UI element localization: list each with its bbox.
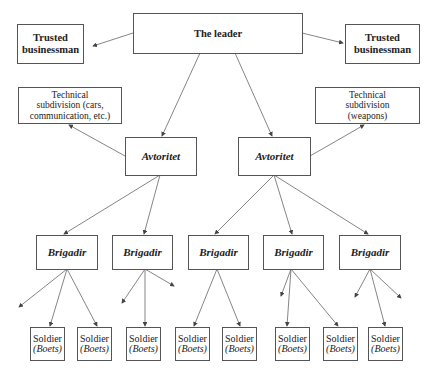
tech-left-line3: communication, etc.)	[30, 111, 110, 121]
trusted-left-line2: businessman	[22, 44, 79, 56]
soldier-sublabel: (Boets)	[278, 344, 307, 355]
brigadir-box-5: Brigadir	[339, 235, 401, 270]
tech-right-line2: subdivision	[346, 100, 390, 110]
leader-box: The leader	[133, 13, 303, 54]
soldier-box-5: Soldier (Boets)	[222, 327, 257, 361]
technical-subdivision-cars-box: Technical subdivision (cars, communicati…	[18, 87, 122, 124]
tech-left-line1: Technical	[52, 90, 89, 100]
soldier-sublabel: (Boets)	[178, 344, 207, 355]
org-chart: The leader Trusted businessman Trusted b…	[0, 0, 430, 370]
avtoritet-label: Avtoritet	[255, 150, 293, 162]
trusted-businessman-right-box: Trusted businessman	[345, 24, 420, 64]
trusted-left-line1: Trusted	[33, 32, 68, 44]
soldier-sublabel: (Boets)	[129, 344, 158, 355]
brigadir-label: Brigadir	[123, 246, 162, 258]
soldier-box-1: Soldier (Boets)	[30, 327, 65, 361]
technical-subdivision-weapons-box: Technical subdivision (weapons)	[315, 87, 420, 124]
brigadir-box-3: Brigadir	[188, 235, 249, 270]
brigadir-box-4: Brigadir	[263, 235, 324, 270]
brigadir-box-1: Brigadir	[36, 235, 98, 270]
soldier-box-8: Soldier (Boets)	[368, 327, 403, 361]
tech-right-line1: Technical	[349, 90, 386, 100]
brigadir-label: Brigadir	[274, 246, 313, 258]
trusted-right-line2: businessman	[354, 44, 411, 56]
avtoritet-box-1: Avtoritet	[125, 137, 197, 176]
trusted-right-line1: Trusted	[365, 32, 400, 44]
soldier-box-3: Soldier (Boets)	[126, 327, 161, 361]
soldier-box-2: Soldier (Boets)	[77, 327, 112, 361]
brigadir-label: Brigadir	[48, 246, 87, 258]
soldier-box-7: Soldier (Boets)	[323, 327, 358, 361]
soldier-sublabel: (Boets)	[33, 344, 62, 355]
brigadir-label: Brigadir	[351, 246, 390, 258]
soldier-box-4: Soldier (Boets)	[175, 327, 210, 361]
tech-left-line2: subdivision (cars,	[36, 100, 103, 110]
soldier-sublabel: (Boets)	[225, 344, 254, 355]
brigadir-label: Brigadir	[199, 246, 238, 258]
soldier-sublabel: (Boets)	[371, 344, 400, 355]
soldier-sublabel: (Boets)	[80, 344, 109, 355]
brigadir-box-2: Brigadir	[112, 235, 173, 270]
avtoritet-box-2: Avtoritet	[238, 137, 311, 176]
trusted-businessman-left-box: Trusted businessman	[17, 24, 84, 64]
leader-label: The leader	[194, 28, 242, 40]
soldier-box-6: Soldier (Boets)	[275, 327, 310, 361]
avtoritet-label: Avtoritet	[142, 150, 180, 162]
soldier-sublabel: (Boets)	[326, 344, 355, 355]
tech-right-line3: (weapons)	[348, 111, 388, 121]
